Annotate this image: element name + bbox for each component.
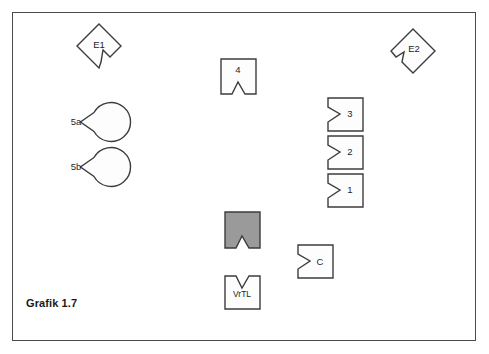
shape-label-c: C: [317, 256, 324, 267]
shape-label-e2: E2: [408, 43, 420, 54]
figure-root: E1 E2 4 5a 5b 3 2 1 C VrTL Grafik 1.7: [0, 0, 489, 354]
shape-label-three: 3: [347, 108, 352, 119]
shape-label-five-b: 5b: [71, 161, 82, 172]
shape-label-two: 2: [347, 146, 352, 157]
shape-label-one: 1: [347, 184, 352, 195]
shape-label-vrtl: VrTL: [233, 289, 251, 299]
shape-label-e1: E1: [93, 39, 105, 50]
figure-caption: Grafik 1.7: [26, 297, 77, 309]
shape-label-five-a: 5a: [71, 116, 82, 127]
shape-label-four: 4: [235, 64, 240, 75]
